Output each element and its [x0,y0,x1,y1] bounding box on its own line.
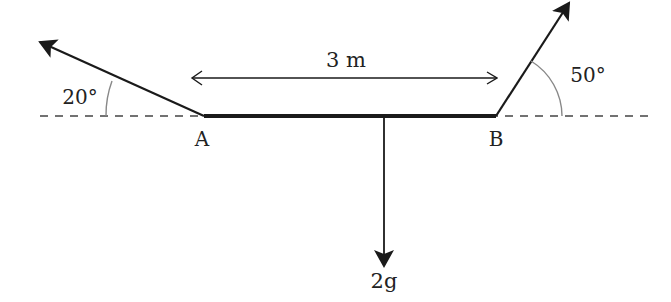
angle-arc-left [106,81,112,116]
point-a-label: A [194,127,210,151]
angle-arc-right [531,61,562,116]
angle-left-label: 20° [62,85,97,109]
force-diagram: 3 m A B 20° 50° 2g [0,0,671,302]
weight-label: 2g [371,269,398,293]
length-label: 3 m [326,48,366,72]
tension-arrow-right [496,3,569,116]
point-b-label: B [489,127,504,151]
angle-right-label: 50° [570,63,605,87]
diagram-canvas: 3 m A B 20° 50° 2g [0,0,671,302]
